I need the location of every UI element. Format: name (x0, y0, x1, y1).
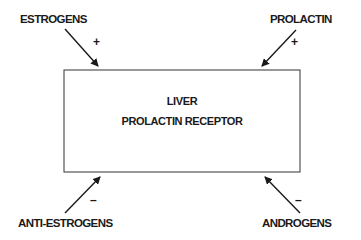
androgens-label: ANDROGENS (262, 217, 331, 229)
anti-estrogens-label: ANTI-ESTROGENS (18, 217, 112, 229)
prolactin-sign: + (291, 35, 298, 49)
center-subtitle: PROLACTIN RECEPTOR (64, 115, 300, 127)
androgens-sign: – (295, 193, 302, 207)
estrogens-sign: + (93, 35, 100, 49)
anti-estrogens-sign: – (90, 193, 97, 207)
prolactin-label: PROLACTIN (270, 13, 332, 25)
center-title: LIVER (64, 95, 300, 107)
estrogens-label: ESTROGENS (20, 13, 87, 25)
